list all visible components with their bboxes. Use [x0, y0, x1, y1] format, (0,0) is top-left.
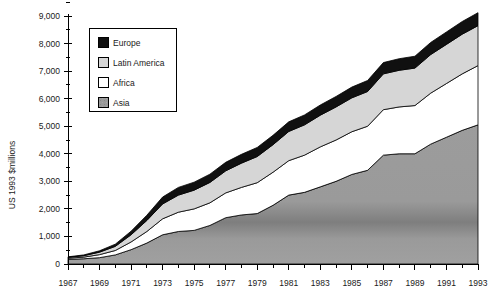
y-tick-label: 4,000 [39, 149, 61, 159]
x-tick-label: 1989 [405, 278, 424, 288]
x-tick-label: 1987 [374, 278, 393, 288]
y-tick-label: 7,000 [39, 66, 61, 76]
x-axis-labels: 1967196919711973197519771979198119831985… [59, 278, 488, 288]
legend-label-europe: Europe [113, 38, 141, 48]
x-tick-label: 1981 [279, 278, 298, 288]
x-tick-label: 1991 [437, 278, 456, 288]
x-tick-label: 1977 [216, 278, 235, 288]
legend-swatch-europe [98, 37, 108, 47]
x-tick-label: 1985 [342, 278, 361, 288]
y-tick-label: 5,000 [39, 121, 61, 131]
x-tick-label: 1993 [469, 278, 488, 288]
chart-canvas: 01,0002,0003,0004,0005,0006,0007,0008,00… [0, 0, 499, 301]
y-tick-label: 1,000 [39, 231, 61, 241]
legend-label-africa: Africa [113, 78, 135, 88]
y-tick-label: 9,000 [39, 11, 61, 21]
x-tick-label: 1979 [248, 278, 267, 288]
legend-label-latin-america: Latin America [113, 58, 165, 68]
y-tick-label: 0 [55, 259, 60, 269]
x-tick-label: 1969 [90, 278, 109, 288]
chart-legend: EuropeLatin AmericaAfricaAsia [89, 28, 176, 111]
legend-swatch-africa [98, 77, 108, 87]
legend-label-asia: Asia [113, 98, 130, 108]
stacked-area-chart: 01,0002,0003,0004,0005,0006,0007,0008,00… [0, 0, 499, 301]
y-tick-label: 6,000 [39, 94, 61, 104]
y-tick-label: 8,000 [39, 39, 61, 49]
legend-swatch-latin-america [98, 57, 108, 67]
x-tick-label: 1983 [311, 278, 330, 288]
x-tick-label: 1973 [153, 278, 172, 288]
legend-swatch-asia [98, 97, 108, 107]
y-axis-labels: 01,0002,0003,0004,0005,0006,0007,0008,00… [39, 11, 61, 269]
x-tick-label: 1967 [59, 278, 78, 288]
y-axis-title: US 1993 $millions [7, 141, 17, 210]
y-tick-label: 3,000 [39, 176, 61, 186]
x-tick-label: 1975 [185, 278, 204, 288]
x-tick-label: 1971 [122, 278, 141, 288]
y-tick-label: 2,000 [39, 204, 61, 214]
